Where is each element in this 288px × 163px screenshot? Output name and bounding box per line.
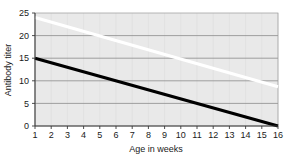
x-tick-label: 9: [162, 130, 167, 140]
x-tick-label: 7: [130, 130, 135, 140]
x-axis-ticks: 12345678910111213141516: [32, 126, 283, 140]
y-tick-label: 25: [19, 8, 29, 18]
y-axis-ticks: 0510152025: [19, 8, 35, 131]
y-tick-label: 10: [19, 76, 29, 86]
x-tick-label: 10: [176, 130, 186, 140]
x-tick-label: 3: [65, 130, 70, 140]
x-tick-label: 4: [81, 130, 86, 140]
y-tick-label: 15: [19, 53, 29, 63]
x-tick-label: 16: [273, 130, 283, 140]
x-tick-label: 14: [241, 130, 251, 140]
x-tick-label: 6: [113, 130, 118, 140]
x-axis-title: Age in weeks: [129, 144, 183, 154]
antibody-titer-line-chart: 0510152025 12345678910111213141516 Age i…: [0, 0, 288, 163]
x-tick-label: 2: [49, 130, 54, 140]
chart-container: 0510152025 12345678910111213141516 Age i…: [0, 0, 288, 163]
x-tick-label: 1: [32, 130, 37, 140]
y-tick-label: 20: [19, 31, 29, 41]
x-tick-label: 8: [146, 130, 151, 140]
x-tick-label: 15: [257, 130, 267, 140]
x-tick-label: 12: [208, 130, 218, 140]
y-axis-title: Antibody titer: [3, 44, 13, 97]
y-tick-label: 5: [24, 99, 29, 109]
x-tick-label: 11: [192, 130, 201, 140]
y-tick-label: 0: [24, 121, 29, 131]
x-tick-label: 13: [224, 130, 234, 140]
x-tick-label: 5: [97, 130, 102, 140]
